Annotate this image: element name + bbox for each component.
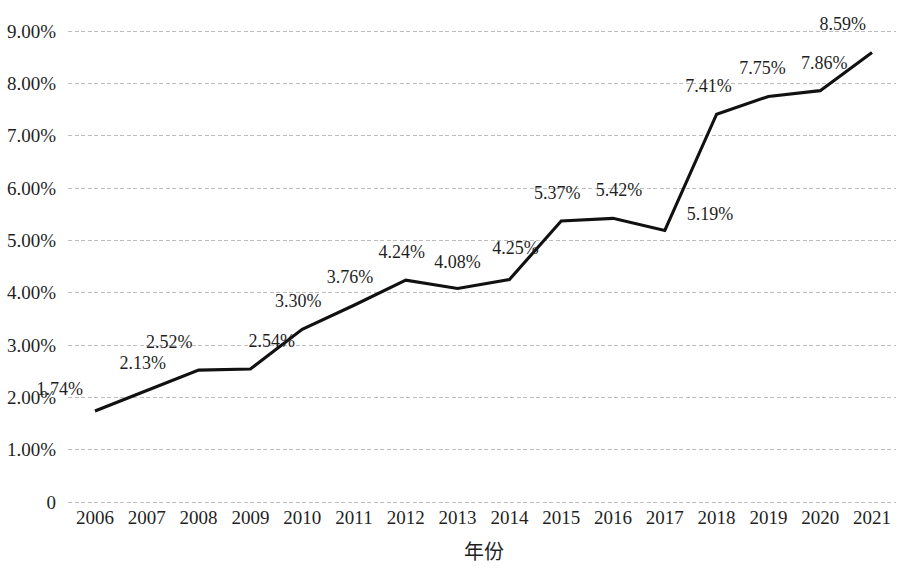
x-axis-tick-label: 2013 [439,507,477,528]
data-point-label: 2.54% [248,331,295,351]
y-axis-tick-label: 9.00% [7,21,56,42]
x-axis-tick-label: 2017 [646,507,684,528]
x-axis-tick-label: 2007 [128,507,166,528]
x-axis-tick-label: 2018 [698,507,736,528]
data-point-label: 7.41% [685,76,732,96]
data-point-label: 8.59% [820,14,867,34]
x-axis-tick-label: 2009 [231,507,269,528]
x-axis-tick-labels: 2006200720082009201020112012201320142015… [76,507,891,528]
data-series [95,52,872,410]
data-point-label: 7.86% [801,53,848,73]
x-axis-tick-label: 2019 [749,507,787,528]
data-point-labels: 1.74%2.13%2.52%2.54%3.30%3.76%4.24%4.08%… [37,14,867,398]
y-axis-tick-label: 4.00% [7,282,56,303]
x-axis-tick-label: 2010 [283,507,321,528]
y-axis-tick-label: 5.00% [7,230,56,251]
data-point-label: 1.74% [37,379,84,399]
data-point-label: 3.30% [275,291,322,311]
x-axis-tick-label: 2014 [490,507,529,528]
y-axis-tick-label: 7.00% [7,125,56,146]
data-point-label: 3.76% [327,267,374,287]
data-point-label: 5.42% [596,180,643,200]
data-point-label: 4.24% [379,242,426,262]
y-axis-tick-label: 3.00% [7,335,56,356]
x-axis-title: 年份 [464,541,504,563]
y-axis-tick-label: 6.00% [7,178,56,199]
x-axis-tick-label: 2011 [335,507,372,528]
data-point-label: 2.52% [146,332,193,352]
chart-canvas: 01.00%2.00%3.00%4.00%5.00%6.00%7.00%8.00… [0,0,906,581]
data-point-label: 4.08% [434,252,481,272]
x-axis-tick-label: 2015 [542,507,580,528]
x-axis-tick-label: 2021 [853,507,891,528]
y-axis-tick-labels: 01.00%2.00%3.00%4.00%5.00%6.00%7.00%8.00… [7,21,56,513]
x-axis-tick-label: 2016 [594,507,632,528]
line-chart: 01.00%2.00%3.00%4.00%5.00%6.00%7.00%8.00… [0,0,906,581]
x-axis-tick-label: 2006 [76,507,114,528]
x-axis-tick-label: 2012 [387,507,425,528]
x-axis-tick-label: 2008 [180,507,218,528]
y-axis-tick-label: 0 [47,492,57,513]
series-line [95,52,872,410]
data-point-label: 4.25% [492,238,539,258]
y-axis-tick-label: 8.00% [7,73,56,94]
data-point-label: 5.37% [534,183,581,203]
data-point-label: 7.75% [739,58,786,78]
x-axis-tick-label: 2020 [801,507,839,528]
gridlines [68,31,896,502]
data-point-label: 2.13% [120,353,167,373]
data-point-label: 5.19% [687,204,734,224]
y-axis-tick-label: 1.00% [7,439,56,460]
